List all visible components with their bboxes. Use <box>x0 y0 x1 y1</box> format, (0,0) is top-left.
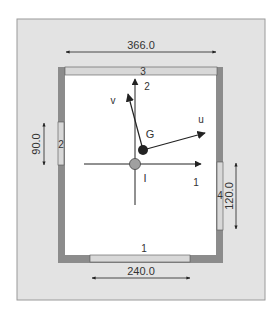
window-bottom-label: 1 <box>141 243 147 254</box>
axis-u-label: u <box>198 114 204 125</box>
window-bottom <box>90 255 190 262</box>
axis-1-label: 1 <box>193 177 199 188</box>
dim-top-label: 366.0 <box>127 39 155 51</box>
point-I <box>130 159 141 170</box>
point-G-label: G <box>146 128 155 140</box>
axis-2-label: 2 <box>144 81 150 92</box>
room-diagram: 3 2 4 1 366.0 90.0 120.0 240.0 1 2 u v I… <box>0 0 278 331</box>
dim-left-label: 90.0 <box>30 133 42 154</box>
axis-v-label: v <box>111 95 116 106</box>
window-left-label: 2 <box>58 139 64 150</box>
point-I-label: I <box>143 172 146 184</box>
dim-right-label: 120.0 <box>223 182 235 210</box>
window-top-label: 3 <box>140 66 146 77</box>
point-G <box>138 145 148 155</box>
dim-bottom-label: 240.0 <box>127 265 155 277</box>
